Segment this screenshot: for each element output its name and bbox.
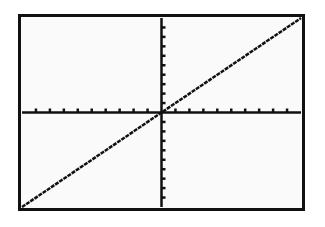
graph-plot	[18, 14, 305, 211]
calculator-graph-screen	[18, 14, 305, 211]
